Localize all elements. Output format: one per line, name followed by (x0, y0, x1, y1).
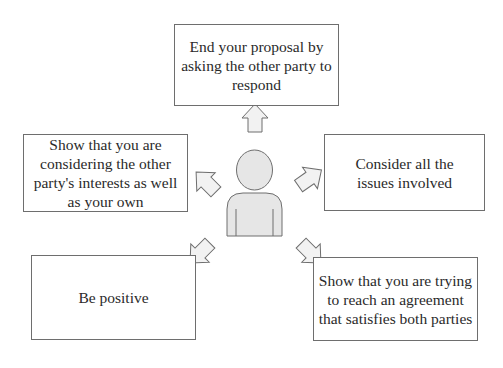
box-bottom-right: Show that you are trying to reach an agr… (313, 257, 478, 341)
arrow-up-left-icon (187, 163, 225, 201)
box-bottom-right-text: Show that you are trying to reach an agr… (318, 271, 473, 328)
person-icon (227, 150, 282, 236)
arrow-up-icon (242, 104, 268, 132)
box-bottom-left-text: Be positive (78, 288, 148, 307)
box-left: Show that you are considering the other … (23, 134, 188, 212)
box-top: End your proposal by asking the other pa… (174, 24, 339, 106)
box-top-text: End your proposal by asking the other pa… (179, 37, 334, 94)
box-bottom-left: Be positive (31, 255, 196, 340)
box-right: Consider all the issues involved (324, 134, 485, 211)
box-right-text: Consider all the issues involved (347, 154, 462, 192)
box-left-text: Show that you are considering the other … (28, 135, 183, 211)
